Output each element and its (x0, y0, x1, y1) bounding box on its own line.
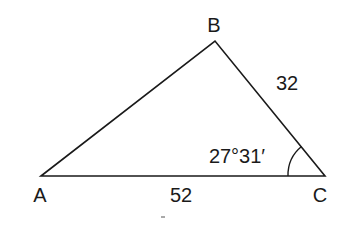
vertex-label-b: B (207, 14, 220, 36)
vertex-label-a: A (33, 184, 47, 206)
triangle-diagram: B A C 52 32 27°31′ (0, 0, 347, 228)
angle-label-c: 27°31′ (209, 145, 265, 167)
angle-c-arc (288, 147, 302, 177)
vertex-label-c: C (313, 184, 327, 206)
side-label-ac: 52 (170, 184, 192, 206)
triangle-abc (41, 41, 325, 176)
side-label-bc: 32 (276, 72, 298, 94)
